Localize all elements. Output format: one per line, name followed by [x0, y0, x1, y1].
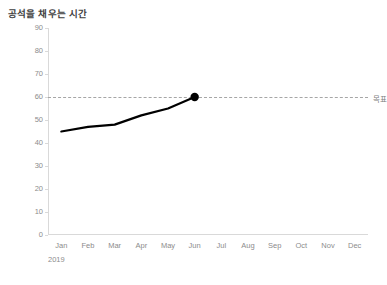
target-line-label: 목표 — [373, 93, 387, 104]
y-axis-tick-label: 90 — [22, 23, 43, 33]
y-axis-tick-mark — [45, 235, 48, 236]
y-axis-tick-label: 40 — [22, 138, 43, 148]
x-axis-period-label: 2019 — [48, 255, 65, 264]
y-axis-tick-label: 30 — [22, 161, 43, 171]
y-axis-tick-label: 70 — [22, 69, 43, 79]
plot-area: 공석을 채우는 시간(일수) 0102030405060708090 목표 Ja… — [48, 28, 368, 235]
y-axis-tick-label: 20 — [22, 184, 43, 194]
chart-title: 공석을 채우는 시간 — [8, 6, 87, 20]
y-axis-tick-label: 80 — [22, 46, 43, 56]
y-axis-tick-label: 0 — [22, 230, 43, 240]
y-axis-tick-label: 50 — [22, 115, 43, 125]
x-axis-tick-label: Dec — [338, 241, 372, 250]
x-axis-line — [48, 234, 368, 235]
data-series-line — [48, 28, 368, 235]
y-axis-tick-label: 10 — [22, 207, 43, 217]
y-axis-tick-label: 60 — [22, 92, 43, 102]
